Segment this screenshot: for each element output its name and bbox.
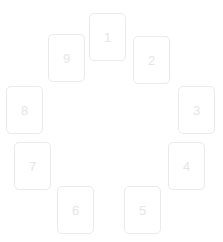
card-7[interactable]: 7 — [14, 142, 51, 190]
card-number-label: 3 — [193, 104, 200, 117]
card-number-label: 8 — [21, 104, 28, 117]
card-number-label: 9 — [63, 52, 70, 65]
card-circle-container: 123456789 — [0, 0, 223, 242]
card-9[interactable]: 9 — [48, 34, 85, 82]
card-number-label: 5 — [139, 204, 146, 217]
card-number-label: 6 — [72, 204, 79, 217]
card-5[interactable]: 5 — [124, 186, 161, 234]
card-number-label: 7 — [29, 160, 36, 173]
card-8[interactable]: 8 — [6, 86, 43, 134]
card-number-label: 2 — [148, 54, 155, 67]
card-number-label: 1 — [104, 31, 111, 44]
card-2[interactable]: 2 — [133, 36, 170, 84]
card-1[interactable]: 1 — [89, 13, 126, 61]
card-number-label: 4 — [183, 160, 190, 173]
card-4[interactable]: 4 — [168, 142, 205, 190]
card-3[interactable]: 3 — [178, 86, 215, 134]
card-6[interactable]: 6 — [57, 186, 94, 234]
